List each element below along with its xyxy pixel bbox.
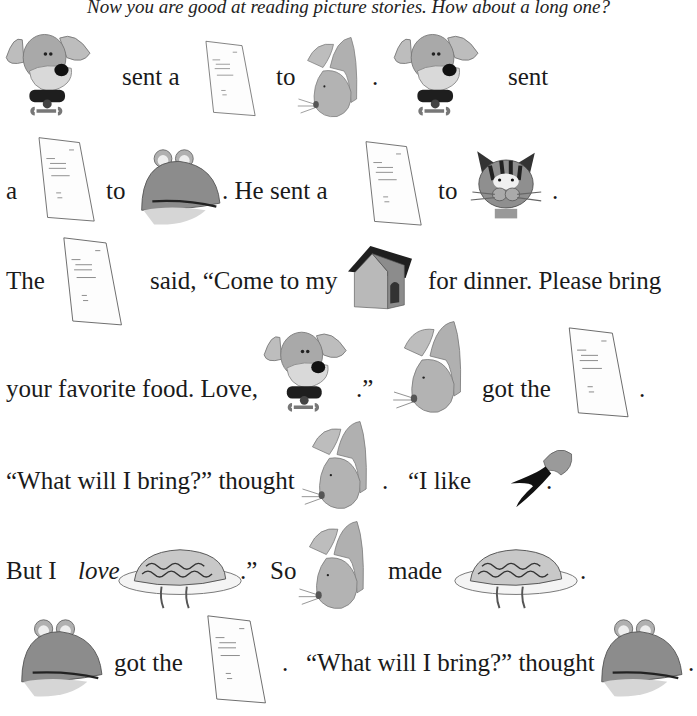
story-text: sent a [122, 62, 180, 92]
story-text: . [546, 466, 552, 496]
story-text: . [552, 176, 558, 206]
story-text-italic: love [78, 556, 120, 586]
story-text: to [438, 176, 457, 206]
rabbit-icon [384, 320, 476, 416]
dog-icon [392, 22, 482, 120]
letter-icon [42, 234, 142, 330]
story-text: said, “Come to my [150, 266, 337, 296]
story-text: to [106, 176, 125, 206]
cat-icon [463, 148, 549, 228]
story-text: . [688, 648, 694, 678]
story-text: . [282, 648, 288, 678]
spaghetti-icon [116, 542, 244, 610]
intro-text: Now you are good at reading picture stor… [0, 0, 697, 18]
story-text: sent [508, 62, 548, 92]
story-text: .” [240, 556, 257, 586]
frog-icon [592, 618, 688, 700]
story-text: The [6, 266, 45, 296]
rabbit-icon [284, 36, 376, 120]
frog-icon [12, 618, 108, 700]
story-text: your favorite food. Love, [6, 374, 258, 404]
spaghetti-icon [452, 542, 580, 610]
frog-icon [133, 148, 225, 228]
story-text: . [639, 374, 645, 404]
story-text: “What will I bring?” thought [306, 648, 595, 678]
letter-icon [186, 612, 286, 708]
story-text: got the [114, 648, 183, 678]
story-text: .” [356, 374, 373, 404]
letter-icon [16, 134, 116, 226]
carrot-icon [484, 440, 596, 510]
story-text: for dinner. Please bring [428, 266, 661, 296]
rabbit-icon [288, 520, 380, 612]
story-text: . [372, 62, 378, 92]
story-text: got the [482, 374, 551, 404]
story-text: “What will I bring?” thought [6, 466, 295, 496]
dog-icon [4, 22, 94, 120]
story-text: “I like [408, 466, 471, 496]
letter-icon [548, 324, 648, 422]
letter-icon [343, 138, 443, 230]
story-text: . He sent a [222, 176, 328, 206]
story-text: . [382, 466, 388, 496]
story-text: . [580, 556, 586, 586]
rabbit-icon [292, 420, 382, 512]
story-text: made [388, 556, 442, 586]
dog-icon [250, 320, 362, 416]
letter-icon [183, 38, 277, 120]
doghouse-icon [340, 246, 420, 310]
story-text: But I [6, 556, 57, 586]
